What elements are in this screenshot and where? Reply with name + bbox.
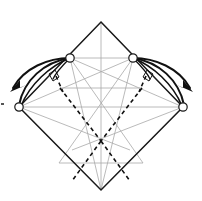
crease-ur-to-bottom [101, 58, 133, 190]
edge-tick-left [1, 103, 4, 105]
circle-marker-upper-left [66, 54, 74, 62]
fold-arrows-left-group [13, 58, 70, 106]
origami-diagram-figure [0, 0, 202, 201]
origami-diagram-svg [0, 0, 202, 201]
circle-marker-left [15, 103, 23, 111]
fold-arrows-right-group [133, 58, 190, 106]
circle-marker-right [179, 103, 187, 111]
crease-left-fan-a [19, 107, 130, 150]
crease-ul-to-bottom [70, 58, 101, 190]
valley-fold-upper-right [101, 88, 142, 141]
edge-tick-group [1, 103, 4, 105]
crease-right-fan-a [72, 107, 183, 150]
circle-marker-upper-right [129, 54, 137, 62]
crease-lines-group [19, 22, 183, 190]
